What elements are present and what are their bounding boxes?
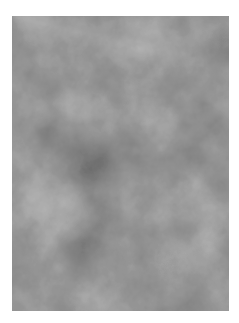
- noise-image: [12, 16, 229, 311]
- cloud-noise-texture: [12, 16, 229, 311]
